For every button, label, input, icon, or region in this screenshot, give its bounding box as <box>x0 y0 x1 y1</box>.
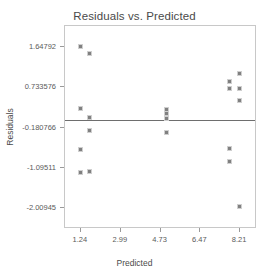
data-point <box>164 130 169 135</box>
data-point <box>87 169 92 174</box>
chart-title: Residuals vs. Predicted <box>0 10 269 22</box>
x-axis-tick-label: 2.99 <box>112 235 127 244</box>
x-axis-tick-label: 6.47 <box>192 235 207 244</box>
data-point <box>237 71 242 76</box>
data-point <box>227 79 232 84</box>
data-point <box>237 86 242 91</box>
data-point <box>87 115 92 120</box>
x-axis-tick-mark <box>239 228 240 232</box>
residuals-scatter-chart: Residuals vs. Predicted Residuals Predic… <box>0 0 269 278</box>
data-point <box>87 128 92 133</box>
data-point <box>78 147 83 152</box>
data-point <box>164 116 169 121</box>
data-point <box>78 106 83 111</box>
data-point <box>78 170 83 175</box>
data-point <box>237 98 242 103</box>
data-point <box>227 159 232 164</box>
data-point <box>87 51 92 56</box>
y-axis-tick-label: 1.64792 <box>29 41 56 50</box>
y-axis-tick-label: -0.180766 <box>22 122 56 131</box>
x-axis-title: Predicted <box>0 258 269 268</box>
x-axis-tick-label: 8.21 <box>232 235 247 244</box>
data-point <box>237 204 242 209</box>
y-axis-tick-label: 0.733576 <box>25 82 56 91</box>
data-point <box>78 44 83 49</box>
x-axis-tick-mark <box>120 228 121 232</box>
y-axis-tick-label: -2.00945 <box>26 203 56 212</box>
y-axis-title: Residuals <box>5 108 15 145</box>
data-point <box>227 146 232 151</box>
x-axis-tick-label: 1.24 <box>72 235 87 244</box>
x-axis-tick-mark <box>80 228 81 232</box>
zero-reference-line <box>65 120 255 121</box>
x-axis-tick-mark <box>199 228 200 232</box>
y-axis-tick-label: -1.09511 <box>27 162 56 171</box>
data-point <box>227 86 232 91</box>
plot-area <box>64 25 256 228</box>
x-axis-tick-mark <box>160 228 161 232</box>
x-axis-tick-label: 4.73 <box>152 235 167 244</box>
